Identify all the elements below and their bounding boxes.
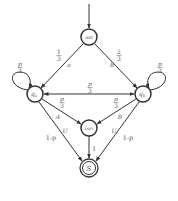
svg-text:1-p: 1-p — [46, 134, 57, 142]
state-init: init — [81, 29, 97, 45]
svg-text:2: 2 — [117, 48, 121, 55]
svg-text:3: 3 — [114, 102, 118, 109]
svg-text:S: S — [87, 165, 92, 173]
svg-text:corr: corr — [85, 126, 94, 131]
label-qb-corr: p 3 B — [114, 95, 123, 120]
label-qa-s: U 1-p — [46, 127, 69, 142]
label-qa-corr: p 3 A — [55, 95, 65, 120]
state-qa: qa — [27, 86, 43, 102]
svg-text:3: 3 — [158, 67, 162, 74]
loop-qa — [12, 72, 30, 90]
edge-init-qb — [95, 44, 137, 88]
svg-text:1: 1 — [92, 145, 96, 153]
svg-text:3: 3 — [60, 102, 64, 109]
svg-text:A: A — [55, 113, 61, 120]
svg-text:3: 3 — [88, 87, 92, 94]
label-corr-s: 1 — [92, 145, 96, 153]
svg-text:U: U — [62, 127, 68, 134]
svg-text:init: init — [85, 35, 93, 40]
edge-init-qa — [41, 44, 83, 88]
state-s-accepting: S — [80, 159, 98, 177]
label-init-qb: 2 3 b — [110, 48, 121, 68]
svg-text:3: 3 — [117, 55, 121, 62]
label-qa-qb: p 3 — [88, 80, 93, 94]
svg-text:b: b — [110, 61, 114, 68]
svg-text:3: 3 — [57, 55, 61, 62]
state-corr: corr — [81, 120, 97, 136]
label-loop-qb: p 3 — [158, 60, 163, 74]
label-loop-qa: p 3 — [18, 60, 23, 74]
state-diagram: init qa qb corr S 1 3 a 2 3 b p 3 p 3 — [0, 0, 178, 201]
svg-text:a: a — [67, 61, 71, 68]
svg-text:3: 3 — [18, 67, 22, 74]
state-qb: qb — [135, 86, 151, 102]
svg-text:B: B — [117, 113, 123, 120]
loop-qb — [148, 72, 166, 90]
svg-text:1: 1 — [57, 48, 61, 55]
svg-text:1-p: 1-p — [123, 134, 134, 142]
